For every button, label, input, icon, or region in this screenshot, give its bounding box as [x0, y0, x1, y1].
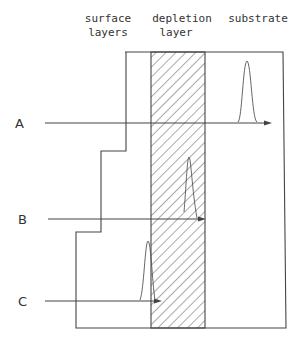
label-depletion-line2: layer: [159, 26, 192, 39]
label-surface-line1: surface: [85, 12, 131, 25]
label-surface-line2: layers: [88, 26, 128, 39]
arrow-label-a: A: [15, 116, 24, 131]
arrow-label-b: B: [18, 212, 27, 227]
depletion-region: [151, 52, 205, 328]
arrow-label-c: C: [18, 294, 27, 309]
peak-a: [238, 61, 257, 122]
label-substrate: substrate: [228, 12, 288, 25]
arrow-a-head-icon: [264, 121, 272, 126]
label-depletion-line1: depletion: [152, 12, 212, 25]
depletion-layer-diagram: surface layers depletion layer substrate…: [0, 0, 301, 338]
